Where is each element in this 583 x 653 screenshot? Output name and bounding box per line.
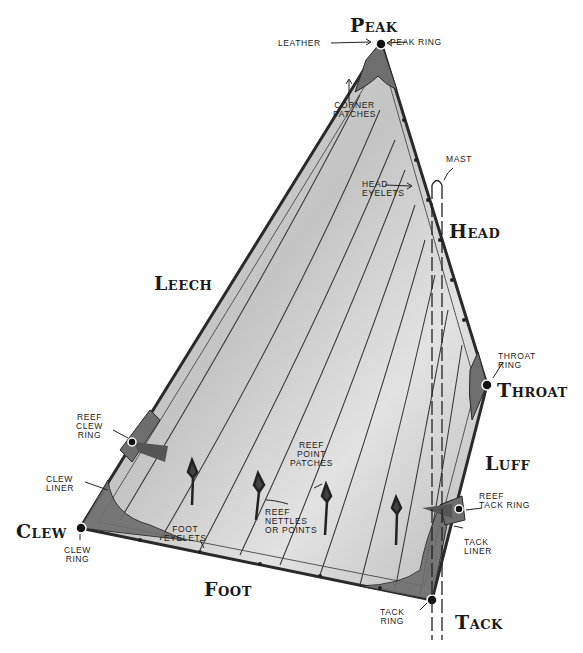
label-luff: Luff [485, 454, 530, 473]
sail-diagram: Peak Head Leech Throat Luff Clew Foot Ta… [0, 0, 583, 653]
label-reef-nettles: Reef nettles or points [265, 508, 317, 535]
label-peak-ring: Peak ring [390, 38, 442, 47]
label-tack-ring: Tack ring [380, 608, 404, 626]
label-clew-liner: Clew liner [46, 475, 74, 493]
label-mast: Mast [446, 155, 472, 164]
label-clew: Clew [16, 522, 67, 541]
label-foot: Foot [204, 580, 252, 599]
clew-ring-icon [76, 523, 86, 533]
label-tack: Tack [455, 613, 503, 632]
reef-tack-ring-icon [455, 505, 463, 513]
label-head-eyelets: Head eyelets [362, 180, 404, 198]
label-throat: Throat [497, 381, 568, 400]
label-clew-ring: Clew ring [64, 546, 91, 564]
label-foot-eyelets: Foot eyelets [164, 525, 206, 543]
label-reef-point-patches: Reef point patches [290, 441, 333, 468]
label-throat-ring: Throat ring [498, 352, 536, 370]
label-tack-liner: Tack liner [464, 538, 492, 556]
label-peak: Peak [350, 16, 398, 35]
label-reef-clew-ring: Reef clew ring [76, 413, 103, 440]
label-leather: Leather [278, 39, 321, 48]
label-corner-patches: Corner patches [333, 101, 376, 119]
label-reef-tack-ring: Reef tack ring [479, 492, 530, 510]
reef-clew-ring-icon [128, 438, 136, 446]
peak-ring-icon [376, 39, 386, 49]
throat-ring-icon [482, 380, 492, 390]
label-head: Head [449, 222, 500, 241]
label-leech: Leech [154, 274, 212, 293]
